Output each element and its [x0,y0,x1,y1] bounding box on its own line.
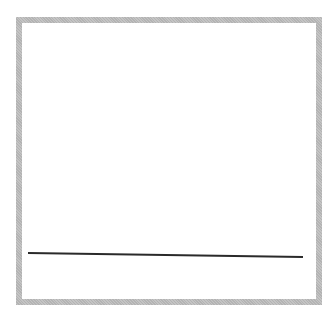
drawing-canvas-frame[interactable] [16,17,322,305]
